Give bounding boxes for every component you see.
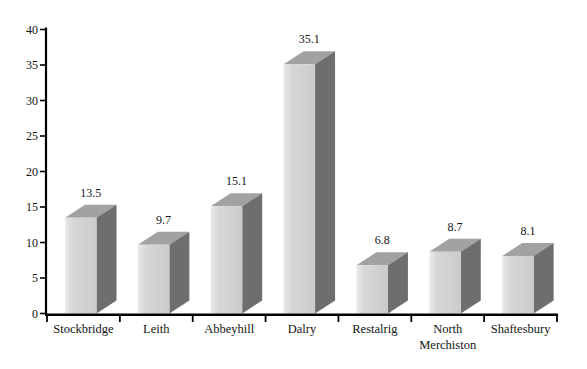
bar-value-label: 8.1 <box>520 224 535 238</box>
x-category-label: Merchiston <box>419 338 477 352</box>
bar-side-face <box>315 51 335 313</box>
bar-front-face <box>65 218 97 314</box>
x-category-label: Dalry <box>288 322 317 336</box>
bar-side-face <box>461 239 481 314</box>
bar-front-face <box>284 64 316 313</box>
bar-value-label: 6.8 <box>375 233 390 247</box>
y-tick-label: 40 <box>26 23 38 37</box>
chart-canvas: 13.59.715.135.16.88.78.10510152025303540… <box>0 0 587 369</box>
bar-value-label: 35.1 <box>299 32 320 46</box>
y-tick-label: 30 <box>26 94 38 108</box>
x-category-label: Stockbridge <box>53 322 114 336</box>
x-category-label: Restalrig <box>352 322 398 336</box>
bar-value-label: 9.7 <box>156 213 171 227</box>
y-tick-label: 25 <box>26 129 38 143</box>
y-tick-label: 10 <box>26 236 38 250</box>
x-category-label: North <box>433 322 463 336</box>
y-tick-label: 20 <box>26 165 38 179</box>
y-tick-label: 0 <box>32 307 38 321</box>
bar-chart-svg: 13.59.715.135.16.88.78.10510152025303540… <box>0 0 587 369</box>
y-tick-label: 5 <box>32 271 38 285</box>
bar-value-label: 15.1 <box>226 174 247 188</box>
y-tick-label: 15 <box>26 200 38 214</box>
bar-front-face <box>502 256 533 314</box>
bar-value-label: 13.5 <box>80 186 101 200</box>
bar-front-face <box>356 265 388 313</box>
bar-front-face <box>138 245 170 314</box>
bar-side-face <box>242 193 262 313</box>
bar-side-face <box>169 232 189 314</box>
bar-side-face <box>97 205 117 314</box>
bar-value-label: 8.7 <box>448 220 463 234</box>
bar-front-face <box>211 206 243 313</box>
x-category-label: Abbeyhill <box>204 322 255 336</box>
y-tick-label: 35 <box>26 58 38 72</box>
bar-front-face <box>429 252 461 314</box>
x-category-label: Shaftesbury <box>491 322 551 336</box>
x-category-label: Leith <box>143 322 170 336</box>
